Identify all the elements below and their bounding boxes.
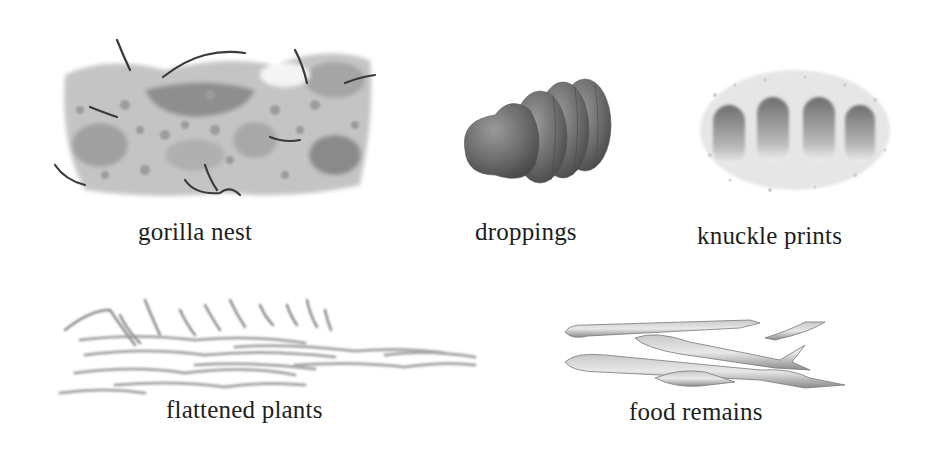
food-remains-label: food remains	[629, 398, 763, 426]
droppings-illustration	[455, 75, 615, 190]
gorilla-nest-illustration	[45, 35, 385, 205]
knuckle-prints-illustration	[695, 55, 895, 205]
food-remains-illustration	[560, 310, 850, 395]
droppings-label: droppings	[475, 218, 577, 246]
gorilla-nest-label: gorilla nest	[138, 218, 252, 246]
knuckle-prints-label: knuckle prints	[697, 222, 842, 250]
flattened-plants-illustration	[55, 285, 495, 400]
flattened-plants-label: flattened plants	[166, 396, 323, 424]
